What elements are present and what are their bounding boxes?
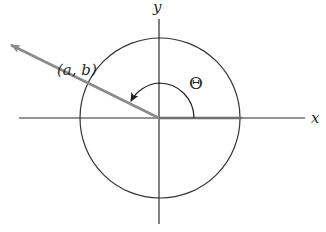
x-axis-label: x	[311, 109, 320, 127]
point-label: (a, b)	[57, 61, 97, 79]
angle-arc-arrow	[131, 83, 194, 118]
y-axis-label: y	[152, 0, 162, 16]
terminal-ray-arrow	[11, 45, 159, 118]
angle-diagram: y x (a, b) Θ	[0, 0, 326, 232]
angle-label: Θ	[189, 73, 203, 93]
